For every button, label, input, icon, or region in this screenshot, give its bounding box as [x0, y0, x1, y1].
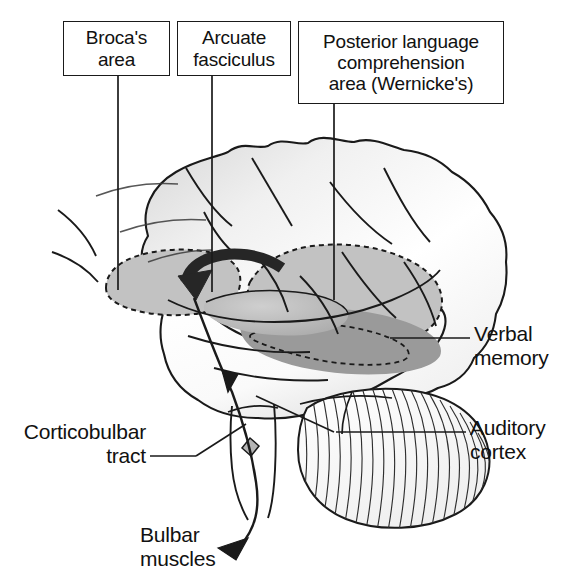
- callout-wernickes-area-line-3: area (Wernicke's): [329, 73, 474, 94]
- cerebellum: [298, 382, 490, 531]
- callout-arcuate-fasciculus-line-1: Arcuate: [202, 27, 266, 48]
- label-auditory-cortex[interactable]: Auditory cortex: [470, 416, 545, 464]
- leader-corticobulbar-angle: [196, 424, 246, 456]
- label-verbal-memory-line-1: Verbal: [474, 322, 549, 346]
- callout-wernickes-area-line-1: Posterior language: [323, 31, 479, 52]
- brainstem-left-edge: [231, 406, 249, 520]
- label-auditory-cortex-line-1: Auditory: [470, 416, 545, 440]
- callout-wernickes-area-line-2: comprehension: [337, 52, 464, 73]
- label-corticobulbar-tract-line-1: Corticobulbar: [14, 420, 146, 444]
- label-bulbar-muscles-line-1: Bulbar: [140, 523, 216, 547]
- brainstem-right-edge: [268, 404, 276, 518]
- label-verbal-memory[interactable]: Verbal memory: [474, 322, 549, 370]
- callout-arcuate-fasciculus-line-2: fasciculus: [193, 49, 274, 70]
- callout-arcuate-fasciculus[interactable]: Arcuate fasciculus: [177, 21, 291, 76]
- label-corticobulbar-tract[interactable]: Corticobulbar tract: [14, 420, 146, 468]
- callout-brocas-area-line-1: Broca's: [86, 27, 147, 48]
- label-corticobulbar-tract-line-2: tract: [14, 444, 146, 468]
- label-bulbar-muscles-line-2: muscles: [140, 547, 216, 571]
- callout-brocas-area-line-2: area: [98, 49, 135, 70]
- callout-brocas-area[interactable]: Broca's area: [63, 21, 170, 76]
- cerebellum-outline: [298, 389, 489, 528]
- brain-language-diagram: Broca's area Arcuate fasciculus Posterio…: [0, 0, 562, 581]
- label-bulbar-muscles[interactable]: Bulbar muscles: [140, 523, 216, 571]
- callout-wernickes-area[interactable]: Posterior language comprehension area (W…: [298, 21, 504, 104]
- label-verbal-memory-line-2: memory: [474, 346, 549, 370]
- bulbar-muscles-arrowhead: [218, 538, 248, 560]
- label-auditory-cortex-line-2: cortex: [470, 440, 545, 464]
